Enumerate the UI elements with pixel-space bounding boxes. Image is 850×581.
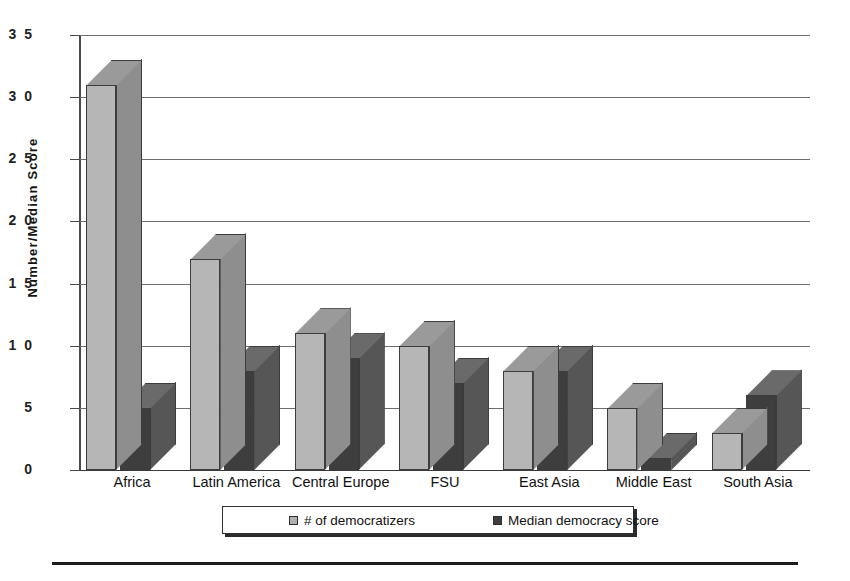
y-axis-tick: [70, 284, 79, 285]
bar-democratizers: [295, 333, 325, 470]
bar-democratizers: [607, 408, 637, 470]
bar-democratizers: [86, 85, 116, 470]
y-axis-tick-label: 5: [24, 399, 34, 415]
gridline: [80, 470, 810, 471]
bar-front-face: [712, 433, 742, 470]
y-axis-tick-label: 1 5: [9, 275, 34, 291]
bar-front-face: [190, 259, 220, 470]
x-axis-label: East Asia: [497, 474, 601, 490]
y-axis-tick: [70, 35, 79, 36]
y-axis-tick-label: 3 5: [9, 26, 34, 42]
gridline: [80, 159, 810, 160]
y-axis-tick: [70, 159, 79, 160]
gridline: [80, 97, 810, 98]
bar-democratizers: [503, 371, 533, 470]
x-axis-label: Latin America: [184, 474, 288, 490]
x-axis-label: Africa: [80, 474, 184, 490]
bar-side-face: [220, 233, 246, 470]
y-axis-tick: [70, 408, 79, 409]
bar-front-face: [295, 333, 325, 470]
bar-side-face: [325, 307, 351, 470]
legend-item-democratizers[interactable]: # of democratizers: [289, 513, 415, 528]
y-axis-tick-label: 0: [24, 461, 34, 477]
chart-legend: # of democratizers Median democracy scor…: [222, 506, 634, 534]
x-axis-label: Central Europe: [289, 474, 393, 490]
x-axis-label: South Asia: [706, 474, 810, 490]
bar-democratizers: [712, 433, 742, 470]
footer-divider: [52, 562, 798, 565]
x-axis-labels: AfricaLatin AmericaCentral EuropeFSUEast…: [80, 474, 810, 498]
bar-front-face: [503, 371, 533, 470]
y-axis-tick: [70, 221, 79, 222]
y-axis-tick-label: 1 0: [9, 337, 34, 353]
bar-front-face: [607, 408, 637, 470]
gridline: [80, 35, 810, 36]
legend-swatch-icon: [289, 516, 298, 525]
bar-democratizers: [190, 259, 220, 470]
gridline: [80, 221, 810, 222]
bar-front-face: [399, 346, 429, 470]
legend-label: # of democratizers: [304, 513, 415, 528]
plot-area: [80, 35, 810, 470]
y-axis-tick: [70, 346, 79, 347]
bar-side-face: [116, 59, 142, 470]
bar-front-face: [86, 85, 116, 470]
x-axis-label: FSU: [393, 474, 497, 490]
legend-item-median-score[interactable]: Median democracy score: [493, 513, 659, 528]
y-axis-tick: [70, 97, 79, 98]
y-axis-tick: [70, 470, 79, 471]
y-axis-tick-label: 2 0: [9, 212, 34, 228]
y-axis-tick-label: 3 0: [9, 88, 34, 104]
chart-figure: Number/Median Score 051 01 52 02 53 03 5…: [0, 0, 850, 581]
legend-swatch-icon: [493, 516, 502, 525]
x-axis-label: Middle East: [601, 474, 705, 490]
legend-label: Median democracy score: [508, 513, 659, 528]
bar-democratizers: [399, 346, 429, 470]
y-axis-tick-label: 2 5: [9, 150, 34, 166]
